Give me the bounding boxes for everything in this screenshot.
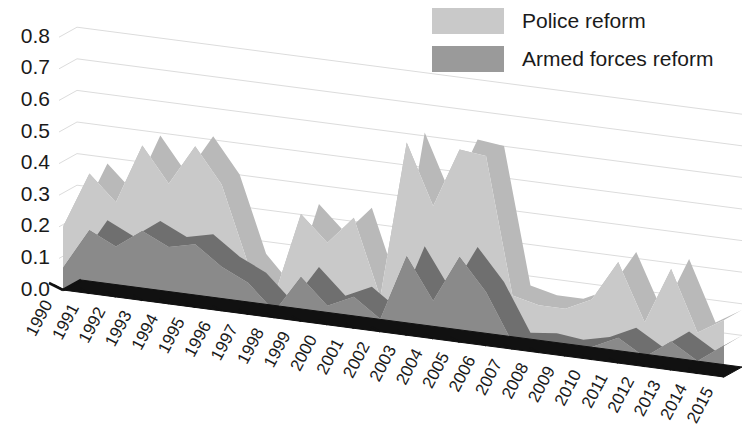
legend-swatch — [432, 46, 504, 72]
gridline-depth-edge — [59, 90, 77, 100]
gridline — [77, 59, 742, 146]
gridline-depth-edge — [59, 59, 77, 69]
stacked-area-chart: 0.80.70.60.50.40.30.20.10.0 199019911992… — [0, 0, 754, 427]
y-axis-tick-label: 0.6 — [21, 87, 50, 110]
gridline-depth-edge — [59, 27, 77, 37]
chart-figure: 0.80.70.60.50.40.30.20.10.0 199019911992… — [0, 0, 754, 427]
legend-label: Armed forces reform — [522, 47, 713, 70]
legend-label: Police reform — [522, 9, 646, 32]
y-axis-tick-label: 0.3 — [21, 182, 50, 205]
y-axis-tick-label: 0.2 — [21, 213, 50, 236]
y-axis-tick-label: 0.4 — [21, 150, 51, 173]
gridline — [77, 27, 742, 114]
chart-legend: Police reformArmed forces reform — [432, 8, 713, 72]
y-axis-tick-labels: 0.80.70.60.50.40.30.20.10.0 — [21, 24, 51, 300]
gridline-depth-edge — [59, 154, 77, 164]
y-axis-tick-label: 0.8 — [21, 24, 50, 47]
gridline-depth-edge — [59, 122, 77, 132]
y-axis-tick-label: 0.5 — [21, 119, 50, 142]
y-axis-tick-label: 0.7 — [21, 55, 50, 78]
y-axis-tick-label: 0.0 — [21, 277, 50, 300]
gridline-depth-edge — [59, 185, 77, 195]
legend-swatch — [432, 8, 504, 34]
y-axis-tick-label: 0.1 — [21, 245, 50, 268]
